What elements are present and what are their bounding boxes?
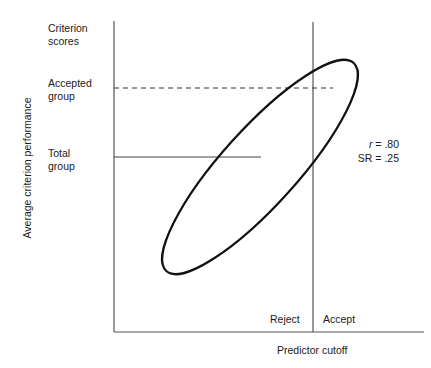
diagram-canvas [0,0,431,368]
criterion-scores-label: Criterion scores [48,22,88,48]
correlation-stat: r = .80 [358,137,399,151]
total-group-line1: Total [48,147,75,160]
stats-annotation: r = .80 SR = .25 [358,137,399,165]
accepted-group-line2: group [48,90,92,103]
accepted-group-label: Accepted group [48,77,92,103]
total-group-label: Total group [48,147,75,173]
correlation-ellipse [138,38,382,297]
r-value: = .80 [372,138,399,150]
criterion-scores-line1: Criterion [48,22,88,35]
accept-label: Accept [323,313,355,326]
x-axis-title: Predictor cutoff [277,344,347,357]
reject-label: Reject [270,313,300,326]
accepted-group-line1: Accepted [48,77,92,90]
y-axis-title: Average criterion performance [21,97,33,238]
criterion-scores-line2: scores [48,35,88,48]
total-group-line2: group [48,160,75,173]
selection-ratio-stat: SR = .25 [358,151,399,165]
